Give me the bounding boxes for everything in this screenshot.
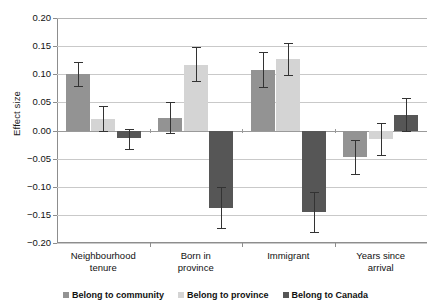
gridline	[57, 102, 427, 103]
error-cap-upper	[217, 187, 226, 188]
error-bar	[196, 47, 197, 81]
plot-area	[57, 18, 427, 243]
gridline	[57, 187, 427, 188]
y-tick-label: 0.20	[33, 13, 52, 23]
error-bar	[355, 140, 356, 174]
legend-item[interactable]: Belong to community	[63, 290, 164, 300]
legend-label: Belong to Canada	[292, 290, 369, 300]
gridline	[57, 159, 427, 160]
error-cap-lower	[217, 228, 226, 229]
gridline	[57, 18, 427, 19]
x-category-line: Immigrant	[242, 250, 335, 262]
y-tick-mark	[53, 215, 57, 216]
legend-item[interactable]: Belong to province	[178, 290, 269, 300]
gridline	[57, 215, 427, 216]
error-cap-lower	[125, 149, 134, 150]
x-category-line: Years since	[335, 250, 428, 262]
error-cap-upper	[351, 140, 360, 141]
y-tick-mark	[53, 131, 57, 132]
error-bar	[170, 102, 171, 132]
y-tick-label: 0.15	[33, 41, 52, 51]
chart-legend: Belong to communityBelong to provinceBel…	[0, 290, 431, 300]
error-cap-upper	[99, 106, 108, 107]
legend-item[interactable]: Belong to Canada	[283, 290, 369, 300]
x-category-line: Born in	[150, 250, 243, 262]
error-cap-lower	[166, 133, 175, 134]
x-category-line: arrival	[335, 262, 428, 274]
x-category-line: tenure	[57, 262, 150, 274]
x-tick-mark	[335, 243, 336, 247]
y-tick-label: −0.20	[27, 238, 51, 248]
y-tick-label: 0.00	[33, 126, 52, 136]
zero-axis-tick	[335, 129, 336, 133]
legend-swatch-icon	[63, 292, 69, 298]
error-cap-lower	[402, 131, 411, 132]
error-bar	[406, 98, 407, 130]
error-cap-upper	[192, 47, 201, 48]
y-tick-mark	[53, 74, 57, 75]
error-cap-lower	[99, 131, 108, 132]
error-cap-lower	[259, 87, 268, 88]
y-tick-mark	[53, 243, 57, 244]
error-bar	[129, 129, 130, 149]
legend-swatch-icon	[178, 292, 184, 298]
y-tick-label: 0.05	[33, 97, 52, 107]
error-bar	[381, 123, 382, 156]
error-cap-upper	[402, 98, 411, 99]
y-tick-label: −0.15	[27, 210, 51, 220]
y-tick-mark	[53, 187, 57, 188]
y-tick-label: 0.10	[33, 69, 52, 79]
error-bar	[78, 62, 79, 86]
error-cap-upper	[377, 123, 386, 124]
error-cap-lower	[192, 81, 201, 82]
y-tick-mark	[53, 102, 57, 103]
error-bar	[263, 52, 264, 87]
y-tick-label: −0.10	[27, 182, 51, 192]
error-cap-upper	[259, 52, 268, 53]
y-tick-mark	[53, 159, 57, 160]
chart-figure: Effect size Belong to communityBelong to…	[0, 0, 431, 302]
x-category-label: Born inprovince	[150, 250, 243, 273]
legend-swatch-icon	[283, 292, 289, 298]
error-cap-lower	[351, 174, 360, 175]
error-bar	[314, 192, 315, 231]
x-category-line: province	[150, 262, 243, 274]
x-category-line: Neighbourhood	[57, 250, 150, 262]
error-cap-upper	[74, 62, 83, 63]
legend-label: Belong to province	[187, 290, 269, 300]
y-tick-mark	[53, 46, 57, 47]
gridline	[57, 74, 427, 75]
x-category-label: Years sincearrival	[335, 250, 428, 273]
x-tick-mark	[242, 243, 243, 247]
gridline	[57, 46, 427, 47]
y-tick-mark	[53, 18, 57, 19]
error-bar	[221, 187, 222, 228]
error-cap-upper	[310, 192, 319, 193]
error-cap-lower	[284, 75, 293, 76]
x-tick-mark	[150, 243, 151, 247]
y-axis-title: Effect size	[11, 64, 22, 164]
x-category-label: Neighbourhoodtenure	[57, 250, 150, 273]
error-bar	[103, 106, 104, 131]
zero-axis-tick	[150, 129, 151, 133]
error-cap-upper	[166, 102, 175, 103]
y-tick-label: −0.05	[27, 154, 51, 164]
zero-axis-tick	[242, 129, 243, 133]
error-cap-lower	[377, 155, 386, 156]
x-category-label: Immigrant	[242, 250, 335, 262]
error-bar	[288, 43, 289, 75]
error-cap-upper	[284, 43, 293, 44]
error-cap-upper	[125, 129, 134, 130]
error-cap-lower	[310, 232, 319, 233]
error-cap-lower	[74, 86, 83, 87]
legend-label: Belong to community	[72, 290, 164, 300]
